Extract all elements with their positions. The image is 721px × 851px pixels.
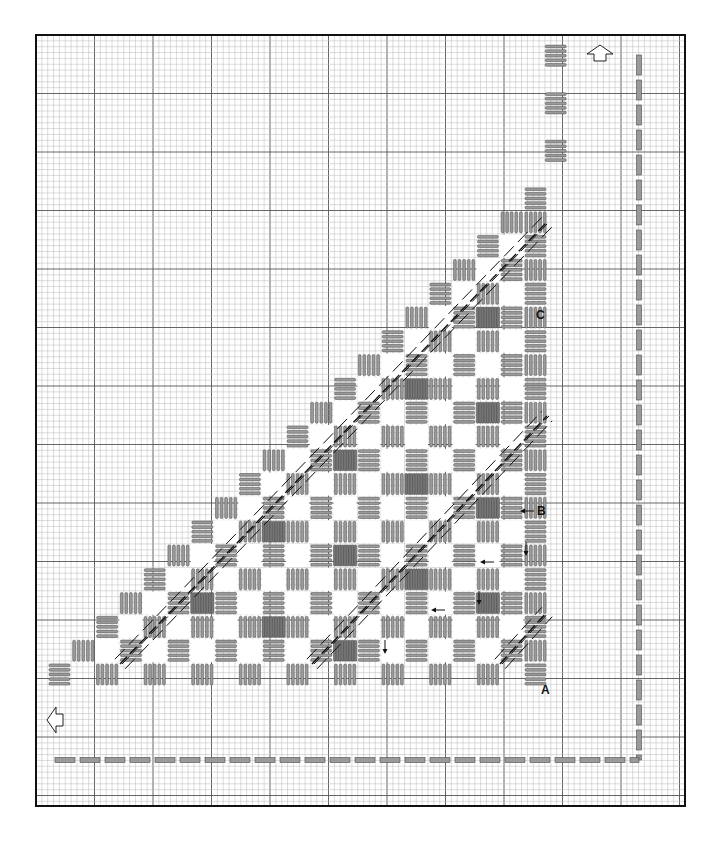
- label-a: A: [541, 683, 550, 697]
- stitch-block: [381, 354, 404, 377]
- stitch-block: [286, 592, 309, 615]
- stitch-block: [500, 282, 523, 305]
- stitch-block: [286, 639, 309, 662]
- stitch-block: [334, 496, 357, 519]
- stitch-block: [120, 593, 141, 614]
- stitch-block: [430, 283, 451, 304]
- stitch-block: [429, 592, 452, 615]
- stitch-block: [358, 497, 379, 518]
- stitch-block: [525, 355, 546, 376]
- arrow-left-icon: [47, 707, 63, 733]
- stitch-block: [357, 615, 380, 638]
- stitch-block: [357, 568, 380, 591]
- stitch-block: [263, 545, 284, 566]
- stitch-block: [453, 377, 476, 400]
- stitch-block: [429, 354, 452, 377]
- stitch-block: [357, 520, 380, 543]
- stitch-block: [143, 592, 166, 615]
- stitch-block: [191, 544, 214, 567]
- stitch-block: [525, 378, 546, 399]
- stitch-block: [263, 593, 284, 614]
- stitch-block: [454, 593, 475, 614]
- stitch-block: [525, 402, 546, 423]
- stitch-block: [430, 664, 451, 685]
- stitch-block: [500, 520, 523, 543]
- stitch-block: [216, 593, 237, 614]
- stitch-block: [525, 188, 546, 209]
- stitch-block: [525, 283, 546, 304]
- stitch-block: [191, 593, 214, 614]
- stitch-block: [357, 425, 380, 448]
- stitch-block: [286, 544, 309, 567]
- stitch-block: [500, 615, 523, 638]
- stitch-block: [525, 236, 546, 257]
- stitch-block: [335, 664, 356, 685]
- stitch-block: [286, 449, 309, 472]
- stitch-block: [238, 592, 261, 615]
- stitch-block: [262, 521, 285, 542]
- stitch-block: [429, 639, 452, 662]
- stitch-block: [453, 615, 476, 638]
- stitch-block: [97, 616, 118, 637]
- stitch-block: [545, 93, 566, 114]
- stitch-block: [382, 426, 403, 447]
- stitch-block: [405, 474, 428, 495]
- stitch-block: [381, 496, 404, 519]
- stitch-block: [500, 473, 523, 496]
- stitch-block: [476, 402, 499, 423]
- stitch-block: [429, 401, 452, 424]
- stitch-block: [97, 664, 118, 685]
- stitch-block: [381, 544, 404, 567]
- stitch-block: [454, 402, 475, 423]
- stitch-chart: A B C: [0, 0, 721, 851]
- stitch-block: [500, 377, 523, 400]
- stitch-block: [238, 496, 261, 519]
- stitch-block: [381, 449, 404, 472]
- stitch-block: [476, 307, 499, 328]
- stitch-block: [454, 545, 475, 566]
- stitch-block: [143, 639, 166, 662]
- stitch-block: [525, 521, 546, 542]
- stitch-block: [382, 664, 403, 685]
- stitch-blocks: [49, 45, 566, 685]
- stitch-block: [476, 258, 499, 281]
- stitch-block: [333, 640, 356, 661]
- stitch-block: [262, 616, 285, 637]
- stitch-block: [476, 354, 499, 377]
- stitch-block: [335, 378, 356, 399]
- stitch-block: [262, 568, 285, 591]
- label-c: C: [536, 308, 545, 322]
- stitch-block: [335, 521, 356, 542]
- point-labels: A B C: [536, 308, 550, 697]
- stitch-block: [192, 664, 213, 685]
- stitch-block: [525, 259, 546, 280]
- stitch-block: [453, 330, 476, 353]
- stitch-block: [216, 497, 237, 518]
- stitch-block: [430, 426, 451, 447]
- stitch-block: [215, 520, 238, 543]
- stitch-block: [476, 544, 499, 567]
- stitch-block: [215, 568, 238, 591]
- stitch-block: [454, 355, 475, 376]
- stitch-block: [429, 496, 452, 519]
- stitch-block: [358, 402, 379, 423]
- stitch-block: [382, 521, 403, 542]
- label-b: B: [537, 504, 546, 518]
- stitch-block: [500, 235, 523, 258]
- stitch-block: [381, 401, 404, 424]
- stitch-block: [430, 378, 451, 399]
- stitch-block: [310, 473, 333, 496]
- stitch-block: [358, 545, 379, 566]
- stitch-block: [381, 592, 404, 615]
- stitch-block: [405, 378, 428, 399]
- stitch-block: [454, 259, 475, 280]
- stitch-block: [500, 330, 523, 353]
- stitch-block: [453, 520, 476, 543]
- stitch-block: [500, 568, 523, 591]
- stitch-block: [405, 520, 428, 543]
- stitch-block: [358, 355, 379, 376]
- stitch-block: [525, 664, 546, 685]
- stitch-block: [525, 593, 546, 614]
- stitch-block: [191, 639, 214, 662]
- stitch-block: [167, 615, 190, 638]
